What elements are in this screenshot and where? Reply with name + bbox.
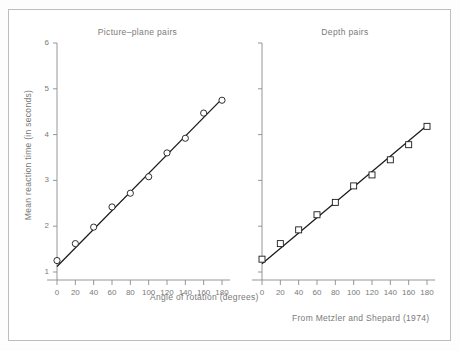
x-tick-label-1-9: 180 <box>417 288 437 297</box>
y-tick-label-5: 6 <box>35 38 49 47</box>
data-point-0-5 <box>146 174 152 180</box>
regression-line-1 <box>262 125 427 263</box>
axes-layer <box>47 43 435 285</box>
data-point-1-1 <box>277 241 283 247</box>
x-tick-label-0-6: 120 <box>157 288 177 297</box>
data-point-0-0 <box>54 257 60 263</box>
x-tick-label-1-4: 80 <box>325 288 345 297</box>
data-point-0-9 <box>219 97 225 103</box>
data-point-0-2 <box>91 224 97 230</box>
data-point-0-6 <box>164 150 170 156</box>
x-tick-label-0-2: 40 <box>84 288 104 297</box>
y-tick-label-1: 2 <box>35 221 49 230</box>
x-tick-label-1-5: 100 <box>344 288 364 297</box>
x-tick-label-1-7: 140 <box>380 288 400 297</box>
data-point-0-3 <box>109 204 115 210</box>
data-point-1-7 <box>387 157 393 163</box>
x-tick-label-0-0: 0 <box>47 288 67 297</box>
x-tick-label-0-1: 20 <box>65 288 85 297</box>
y-tick-label-0: 1 <box>35 267 49 276</box>
x-tick-label-0-7: 140 <box>175 288 195 297</box>
data-layer <box>54 97 430 266</box>
data-point-0-1 <box>72 241 78 247</box>
x-tick-label-1-3: 60 <box>307 288 327 297</box>
data-point-1-0 <box>259 256 265 262</box>
x-tick-label-0-9: 180 <box>212 288 232 297</box>
data-point-1-5 <box>351 183 357 189</box>
x-tick-label-0-3: 60 <box>102 288 122 297</box>
x-tick-label-1-8: 160 <box>399 288 419 297</box>
data-point-1-3 <box>314 212 320 218</box>
x-tick-label-0-4: 80 <box>120 288 140 297</box>
data-point-1-9 <box>424 123 430 129</box>
x-tick-label-1-2: 40 <box>289 288 309 297</box>
x-tick-label-1-6: 120 <box>362 288 382 297</box>
data-point-1-8 <box>406 142 412 148</box>
x-tick-label-0-8: 160 <box>194 288 214 297</box>
data-point-1-2 <box>296 227 302 233</box>
data-point-0-7 <box>182 135 188 141</box>
x-tick-label-1-0: 0 <box>252 288 272 297</box>
data-point-1-6 <box>369 172 375 178</box>
x-tick-label-0-5: 100 <box>139 288 159 297</box>
figure-root: Picture–plane pairs Depth pairs Mean rea… <box>0 0 460 351</box>
data-point-0-4 <box>127 190 133 196</box>
data-point-1-4 <box>332 199 338 205</box>
data-point-0-8 <box>201 110 207 116</box>
x-tick-label-1-1: 20 <box>270 288 290 297</box>
regression-line-0 <box>57 99 222 267</box>
y-tick-label-2: 3 <box>35 175 49 184</box>
plot-canvas <box>0 0 460 351</box>
y-tick-label-3: 4 <box>35 130 49 139</box>
y-tick-label-4: 5 <box>35 84 49 93</box>
